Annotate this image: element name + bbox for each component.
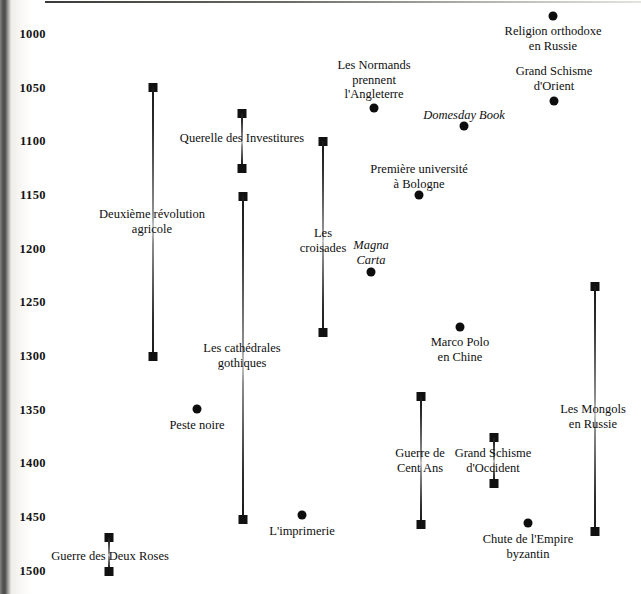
event-label-line-2: gothiques xyxy=(203,356,280,371)
event-label-line-1: Guerre de xyxy=(395,446,445,461)
axis-tick-1200: 1200 xyxy=(0,242,46,257)
event-label-marco-polo: Marco Polo en Chine xyxy=(431,335,490,364)
event-label-line-1: Deuxième révolution xyxy=(99,207,205,222)
event-label-line-1: Première université xyxy=(370,162,468,177)
event-label-line-1: Querelle des Investitures xyxy=(180,131,304,146)
event-label-chute-byzance: Chute de l'Empire byzantin xyxy=(483,532,573,561)
range-cap-bottom-icon xyxy=(104,567,113,576)
event-label-line-2: prennent xyxy=(337,73,410,88)
event-label-grand-schisme-orient: Grand Schisme d'Orient xyxy=(516,64,593,93)
event-label-line-1: Les Mongols xyxy=(560,402,626,417)
event-label-line-1: Marco Polo xyxy=(431,335,490,350)
event-point-imprimerie[interactable] xyxy=(298,511,307,520)
event-label-croisades: Les croisades xyxy=(300,226,347,255)
axis-tick-1250: 1250 xyxy=(0,295,46,310)
event-label-mongols-russie: Les Mongols en Russie xyxy=(560,402,626,431)
event-point-marco-polo[interactable] xyxy=(456,323,465,332)
event-label-line-2: en Chine xyxy=(431,350,490,365)
axis-tick-1400: 1400 xyxy=(0,456,46,471)
event-point-religion-orthodoxe[interactable] xyxy=(549,12,558,21)
axis-tick-1100: 1100 xyxy=(0,134,46,149)
axis-tick-1350: 1350 xyxy=(0,403,46,418)
event-label-line-2: en Russie xyxy=(505,39,602,54)
event-label-line-1: Grand Schisme xyxy=(455,446,532,461)
axis-tick-1050: 1050 xyxy=(0,81,46,96)
event-label-line-1: Guerre des Deux Roses xyxy=(51,549,169,564)
event-label-line-3: l'Angleterre xyxy=(337,87,410,102)
event-label-peste-noire: Peste noire xyxy=(169,418,224,433)
event-label-line-1: Religion orthodoxe xyxy=(505,24,602,39)
event-label-magna-carta: Magna Carta xyxy=(353,238,388,267)
axis-tick-1150: 1150 xyxy=(0,188,46,203)
event-point-grand-schisme-orient[interactable] xyxy=(550,97,559,106)
event-label-querelle-investitures: Querelle des Investitures xyxy=(180,131,304,146)
event-point-domesday-book[interactable] xyxy=(460,122,469,131)
event-label-line-2: d'Orient xyxy=(516,79,593,94)
event-point-peste-noire[interactable] xyxy=(193,405,202,414)
event-label-line-1: Les Normands xyxy=(337,58,410,73)
event-label-universite-bologne: Première université à Bologne xyxy=(370,162,468,191)
axis-tick-1450: 1450 xyxy=(0,510,46,525)
event-label-line-2: croisades xyxy=(300,241,347,256)
range-cap-bottom-icon xyxy=(238,515,247,524)
event-point-magna-carta[interactable] xyxy=(367,268,376,277)
axis-tick-1000: 1000 xyxy=(0,27,46,42)
event-label-revolution-agricole: Deuxième révolution agricole xyxy=(99,207,205,236)
event-label-imprimerie: L'imprimerie xyxy=(269,524,334,539)
event-label-line-1: Chute de l'Empire xyxy=(483,532,573,547)
event-label-line-2: Carta xyxy=(353,253,388,268)
range-cap-bottom-icon xyxy=(590,527,599,536)
event-label-guerre-cent-ans: Guerre de Cent Ans xyxy=(395,446,445,475)
event-point-universite-bologne[interactable] xyxy=(415,191,424,200)
event-label-line-1: Peste noire xyxy=(169,418,224,433)
event-label-religion-orthodoxe: Religion orthodoxe en Russie xyxy=(505,24,602,53)
event-label-line-2: d'Occident xyxy=(455,461,532,476)
range-cap-bottom-icon xyxy=(318,328,327,337)
event-label-line-1: L'imprimerie xyxy=(269,524,334,539)
event-point-normands[interactable] xyxy=(370,104,379,113)
axis-tick-1300: 1300 xyxy=(0,349,46,364)
event-label-grand-schisme-occident: Grand Schisme d'Occident xyxy=(455,446,532,475)
range-cap-bottom-icon xyxy=(237,164,246,173)
event-point-chute-byzance[interactable] xyxy=(524,519,533,528)
event-label-normands: Les Normands prennent l'Angleterre xyxy=(337,58,410,102)
range-cap-bottom-icon xyxy=(148,352,157,361)
event-label-line-2: en Russie xyxy=(560,417,626,432)
event-label-line-1: Magna xyxy=(353,238,388,253)
event-label-domesday-book: Domesday Book xyxy=(423,108,505,123)
event-label-line-1: Domesday Book xyxy=(423,108,505,123)
event-label-line-2: à Bologne xyxy=(370,177,468,192)
event-label-cathedrales-gothiques: Les cathédrales gothiques xyxy=(203,341,280,370)
range-cap-bottom-icon xyxy=(489,479,498,488)
event-label-guerre-deux-roses: Guerre des Deux Roses xyxy=(51,549,169,564)
range-cap-bottom-icon xyxy=(416,520,425,529)
timeline-chart: 1000 1050 1100 1150 1200 1250 1300 1350 … xyxy=(0,0,641,594)
event-label-line-1: Les cathédrales xyxy=(203,341,280,356)
axis-tick-1500: 1500 xyxy=(0,564,46,579)
event-label-line-1: Grand Schisme xyxy=(516,64,593,79)
event-label-line-1: Les xyxy=(300,226,347,241)
event-label-line-2: agricole xyxy=(99,222,205,237)
event-label-line-2: byzantin xyxy=(483,547,573,562)
event-label-line-2: Cent Ans xyxy=(395,461,445,476)
